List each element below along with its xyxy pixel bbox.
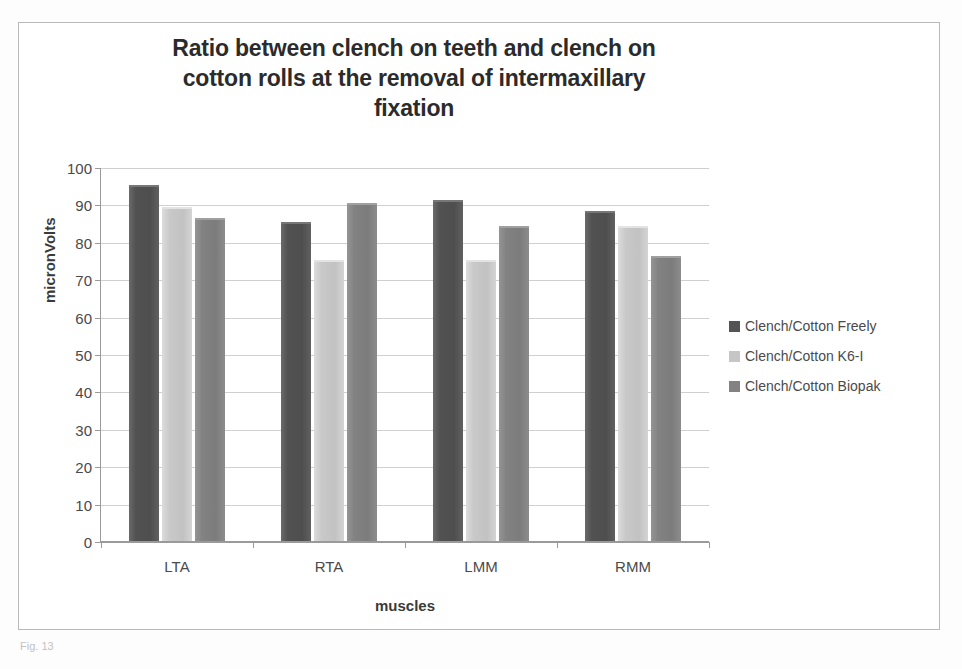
y-axis-tick-label: 90 [75,197,92,214]
y-axis-tick-label: 70 [75,272,92,289]
bar-group [585,168,681,542]
x-axis-tick-label: RMM [615,558,651,575]
x-axis-tick-mark [253,542,254,548]
x-axis-tick-mark [557,542,558,548]
chart-title-line-1: Ratio between clench on teeth and clench… [114,33,714,63]
bar-group [433,168,529,542]
legend-item: Clench/Cotton Biopak [729,378,929,394]
bar [281,222,311,542]
x-axis-title: muscles [101,597,709,614]
x-axis-tick-mark [101,542,102,548]
y-axis-tick-label: 50 [75,347,92,364]
x-axis-tick-label: RTA [315,558,344,575]
y-axis-tick-label: 20 [75,459,92,476]
bar [129,185,159,542]
legend-item-label: Clench/Cotton Freely [745,318,877,334]
figure-caption: Fig. 13 [20,640,54,652]
legend-item-label: Clench/Cotton Biopak [745,378,880,394]
scanned-page: Ratio between clench on teeth and clench… [0,0,962,669]
bar [195,218,225,542]
bar [618,226,648,542]
bar [347,203,377,542]
y-axis-tick-label: 100 [67,160,92,177]
bar [162,207,192,542]
y-axis-tick-label: 40 [75,384,92,401]
legend-item-label: Clench/Cotton K6-I [745,348,863,364]
chart-legend: Clench/Cotton FreelyClench/Cotton K6-ICl… [729,318,929,408]
legend-item: Clench/Cotton Freely [729,318,929,334]
y-axis-tick-label: 80 [75,234,92,251]
bar-group [281,168,377,542]
bars-layer [101,168,709,542]
legend-swatch-icon [729,381,740,392]
plot-area: 0102030405060708090100 LTARTALMMRMM [101,168,709,542]
bar [499,226,529,542]
legend-swatch-icon [729,351,740,362]
x-axis-tick-label: LTA [164,558,189,575]
bar [585,211,615,542]
x-axis-tick-mark [405,542,406,548]
bar [433,200,463,542]
bar [651,256,681,542]
chart-title-line-3: fixation [114,93,714,123]
legend-item: Clench/Cotton K6-I [729,348,929,364]
y-axis-tick-label: 60 [75,309,92,326]
x-axis-tick-mark [709,542,710,548]
y-axis-tick-label: 30 [75,421,92,438]
bar-group [129,168,225,542]
chart-title-line-2: cotton rolls at the removal of intermaxi… [114,63,714,93]
legend-swatch-icon [729,321,740,332]
x-axis-tick-label: LMM [464,558,497,575]
y-axis-tick-label: 0 [84,534,92,551]
chart-title: Ratio between clench on teeth and clench… [114,33,714,123]
y-axis-tick-label: 10 [75,496,92,513]
bar [314,260,344,543]
chart-frame: Ratio between clench on teeth and clench… [18,22,940,630]
bar [466,260,496,543]
y-axis-title: micronVolts [41,217,58,303]
